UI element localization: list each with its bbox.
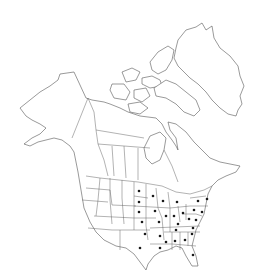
- occurrence-dot: [201, 211, 204, 214]
- occurrence-dot: [152, 195, 155, 198]
- occurrence-dot: [193, 209, 196, 212]
- occurrence-dot: [176, 201, 179, 204]
- occurrence-dot: [159, 247, 162, 250]
- distribution-map: North America distribution map: [0, 0, 259, 280]
- occurrence-dot: [177, 223, 180, 226]
- occurrence-dot: [141, 221, 144, 224]
- occurrence-dot: [191, 233, 194, 236]
- occurrence-dot: [184, 239, 187, 242]
- occurrence-dot: [175, 229, 178, 232]
- occurrence-dot: [206, 198, 209, 201]
- occurrence-dot: [138, 211, 141, 214]
- occurrence-dot: [138, 201, 141, 204]
- occurrence-dot: [158, 221, 161, 224]
- occurrence-dot: [195, 219, 198, 222]
- occurrence-dot: [174, 240, 177, 243]
- occurrence-dot: [192, 254, 195, 257]
- occurrence-dot: [154, 210, 157, 213]
- occurrence-dot: [159, 235, 162, 238]
- occurrence-dot: [192, 227, 195, 230]
- occurrence-dot: [188, 218, 191, 221]
- occurrence-dot: [197, 200, 200, 203]
- occurrence-dot: [173, 215, 176, 218]
- occurrence-dot: [165, 215, 168, 218]
- occurrence-dot: [138, 190, 141, 193]
- occurrence-dot: [144, 233, 147, 236]
- occurrence-dot: [139, 247, 142, 250]
- occurrence-dot: [182, 212, 185, 215]
- occurrence-dots: [0, 0, 259, 280]
- occurrence-dot: [162, 200, 165, 203]
- occurrence-dot: [165, 241, 168, 244]
